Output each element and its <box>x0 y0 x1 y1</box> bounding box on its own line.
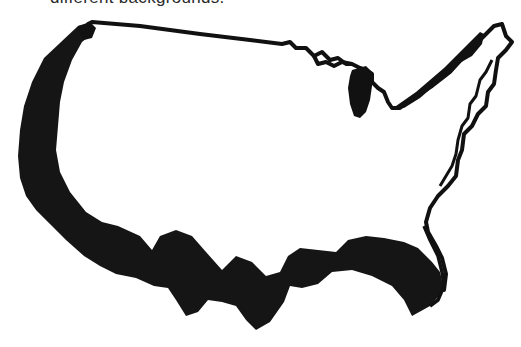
northeast-shadow-band <box>396 32 484 108</box>
great-lake-michigan <box>348 66 372 118</box>
us-map-outline <box>0 0 521 347</box>
coastal-shadow-band <box>18 24 444 330</box>
atlantic-coast-line <box>440 60 492 186</box>
